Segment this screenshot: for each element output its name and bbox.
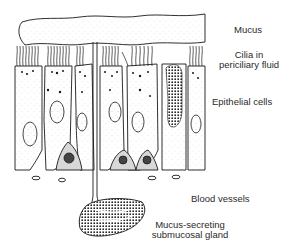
- cilia: [17, 46, 203, 66]
- label-cilia-line2: periciliary fluid: [212, 60, 286, 70]
- epithelium-diagram: [0, 0, 292, 249]
- label-mucus: Mucus: [234, 25, 262, 35]
- mucus-layer: [19, 14, 205, 45]
- blood-vessels: [32, 175, 180, 182]
- label-epithelial-cells: Epithelial cells: [212, 97, 272, 107]
- goblet-cell-granules: [166, 65, 182, 127]
- label-cilia: Cilia in periciliary fluid: [212, 50, 286, 70]
- submucosal-gland: [79, 199, 145, 237]
- label-blood-vessels: Blood vessels: [191, 194, 250, 204]
- label-submucosal-gland: Mucus-secreting submucosal gland: [144, 220, 236, 240]
- label-gland-line2: submucosal gland: [144, 230, 236, 240]
